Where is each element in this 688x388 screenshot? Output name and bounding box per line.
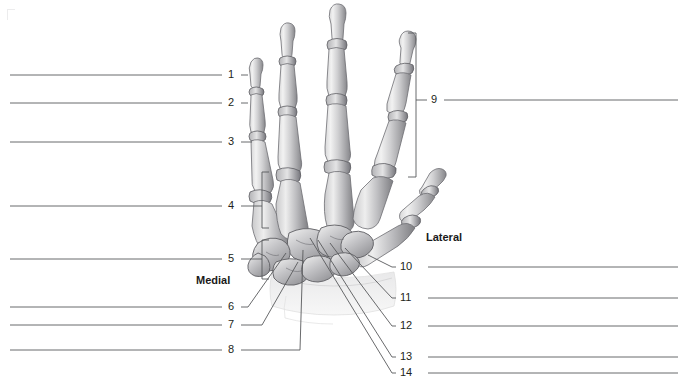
- callout-number-11: 11: [400, 292, 411, 303]
- callout-number-5: 5: [228, 253, 234, 264]
- callout-number-12: 12: [400, 320, 412, 331]
- callout-number-14: 14: [400, 367, 412, 378]
- callout-number-4: 4: [228, 200, 234, 211]
- middle-finger-bones: [276, 23, 308, 241]
- hand-skeleton-illustration: [10, 4, 678, 373]
- callout-number-2: 2: [228, 97, 234, 108]
- callout-number-3: 3: [228, 136, 234, 147]
- callout-number-6: 6: [228, 301, 234, 312]
- ring-finger-bones: [324, 4, 354, 233]
- callout-number-7: 7: [228, 319, 234, 330]
- little-finger-bones: [353, 31, 416, 229]
- callout-number-9: 9: [431, 94, 437, 105]
- direction-label-medial: Medial: [196, 274, 230, 286]
- hand-skeleton-figure: [0, 0, 688, 388]
- figure-container: 1234567891011121314MedialLateral: [0, 0, 688, 388]
- callout-number-10: 10: [400, 261, 412, 272]
- callout-number-13: 13: [400, 351, 412, 362]
- callout-number-8: 8: [228, 344, 234, 355]
- callout-number-1: 1: [228, 69, 234, 80]
- direction-label-lateral: Lateral: [426, 231, 462, 243]
